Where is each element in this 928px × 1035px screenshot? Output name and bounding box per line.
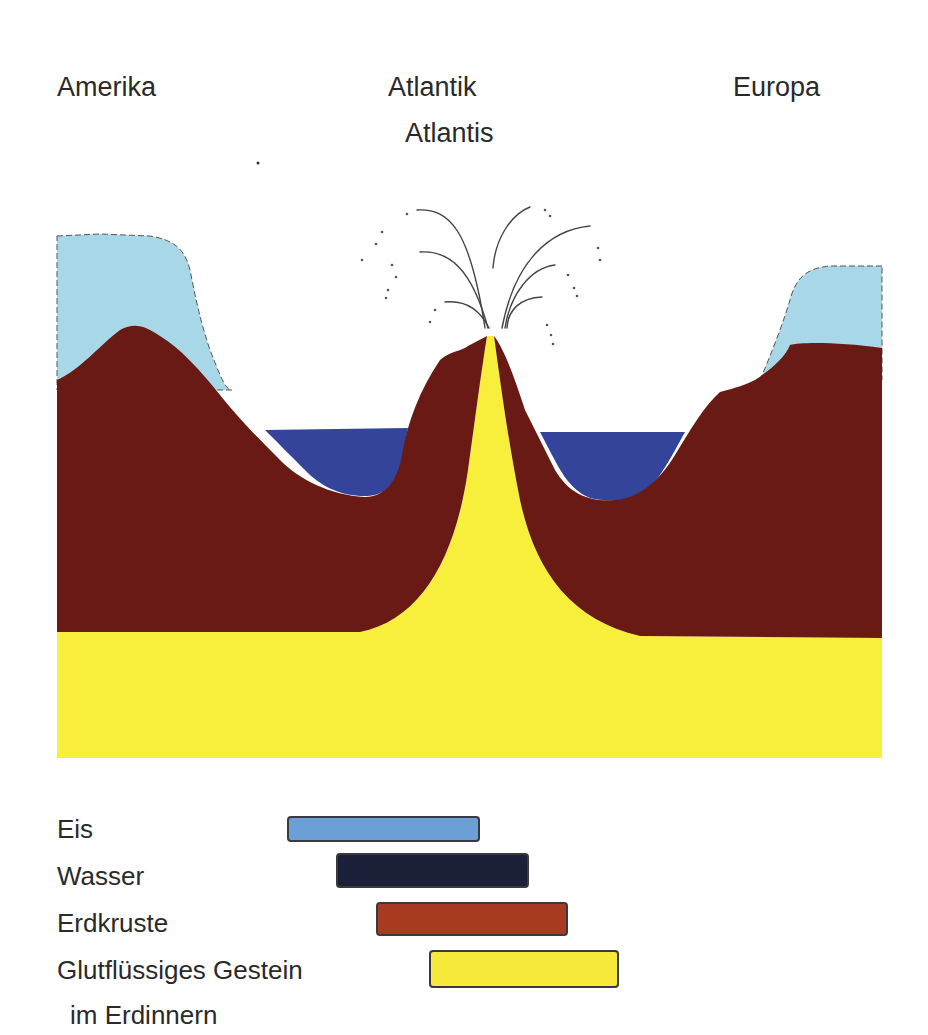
legend-swatch-erdkruste — [376, 902, 568, 936]
legend-swatch-wasser — [336, 853, 529, 888]
crust-left — [57, 326, 487, 632]
eruption-dots — [361, 209, 602, 346]
stray-dot — [257, 162, 260, 165]
legend-label-eis: Eis — [57, 814, 93, 845]
legend-label-gestein: Glutflüssiges Gestein — [57, 955, 303, 986]
legend-swatch-gestein — [429, 950, 619, 988]
legend-swatch-eis — [287, 816, 480, 842]
legend-label-erdkruste: Erdkruste — [57, 908, 168, 939]
legend-label-wasser: Wasser — [57, 861, 144, 892]
eruption-plume — [417, 207, 590, 328]
legend-label-gestein-line2: im Erdinnern — [70, 1000, 217, 1031]
